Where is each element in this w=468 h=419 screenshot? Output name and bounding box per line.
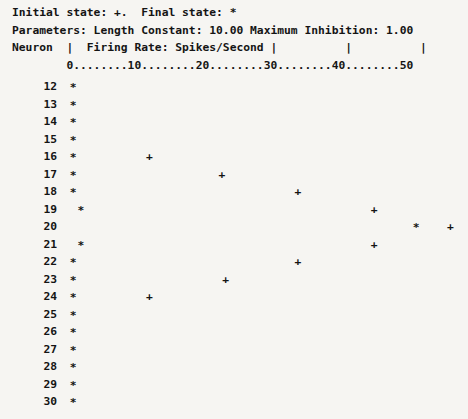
final-state-marker: * (70, 187, 77, 198)
final-state-marker: * (70, 170, 77, 181)
final-state-marker: * (77, 205, 84, 216)
neuron-row: 23*+ (0, 273, 468, 291)
neuron-row-label: 22 (0, 255, 57, 268)
final-state-marker: * (70, 362, 77, 373)
neuron-row-label: 21 (0, 238, 57, 251)
neuron-row-label: 13 (0, 98, 57, 111)
initial-state-marker: + (146, 291, 153, 302)
final-state-marker: * (70, 152, 77, 163)
final-state-marker: * (70, 397, 77, 408)
neuron-row-label: 18 (0, 185, 57, 198)
neuron-row: 15* (0, 133, 468, 151)
neuron-row-label: 24 (0, 290, 57, 303)
neuron-row: 13* (0, 98, 468, 116)
neuron-row: 22*+ (0, 255, 468, 273)
neuron-row-label: 19 (0, 203, 57, 216)
final-state-marker: * (70, 82, 77, 93)
neuron-row: 18*+ (0, 185, 468, 203)
neuron-row-label: 25 (0, 308, 57, 321)
neuron-row: 24*+ (0, 290, 468, 308)
initial-state-marker: + (218, 169, 225, 180)
plot-rows: 12*13*14*15*16*+17*+18*+19*+20*+21*+22*+… (0, 0, 468, 419)
neuron-row-label: 17 (0, 168, 57, 181)
initial-state-marker: + (371, 239, 378, 250)
initial-state-marker: + (447, 221, 454, 232)
final-state-marker: * (413, 222, 420, 233)
neuron-row: 27* (0, 343, 468, 361)
terminal-output-page: Initial state: +. Final state: * Paramet… (0, 0, 468, 419)
final-state-marker: * (70, 100, 77, 111)
final-state-marker: * (70, 135, 77, 146)
neuron-row-label: 15 (0, 133, 57, 146)
neuron-row-label: 12 (0, 80, 57, 93)
neuron-row-label: 16 (0, 150, 57, 163)
final-state-marker: * (70, 275, 77, 286)
neuron-row-label: 28 (0, 360, 57, 373)
initial-state-marker: + (295, 186, 302, 197)
neuron-row-label: 26 (0, 325, 57, 338)
neuron-row: 30* (0, 395, 468, 413)
initial-state-marker: + (146, 151, 153, 162)
neuron-row: 26* (0, 325, 468, 343)
neuron-row: 20*+ (0, 220, 468, 238)
neuron-row: 29* (0, 378, 468, 396)
neuron-row: 16*+ (0, 150, 468, 168)
neuron-row: 14* (0, 115, 468, 133)
final-state-marker: * (70, 327, 77, 338)
final-state-marker: * (77, 240, 84, 251)
neuron-row: 12* (0, 80, 468, 98)
final-state-marker: * (70, 310, 77, 321)
neuron-row-label: 20 (0, 220, 57, 233)
neuron-row-label: 29 (0, 378, 57, 391)
initial-state-marker: + (222, 274, 229, 285)
neuron-row: 28* (0, 360, 468, 378)
final-state-marker: * (70, 292, 77, 303)
neuron-row-label: 14 (0, 115, 57, 128)
neuron-row: 19*+ (0, 203, 468, 221)
final-state-marker: * (70, 257, 77, 268)
final-state-marker: * (70, 345, 77, 356)
final-state-marker: * (70, 117, 77, 128)
final-state-marker: * (70, 380, 77, 391)
neuron-row-label: 23 (0, 273, 57, 286)
initial-state-marker: + (295, 256, 302, 267)
neuron-row-label: 30 (0, 395, 57, 408)
neuron-row: 17*+ (0, 168, 468, 186)
initial-state-marker: + (371, 204, 378, 215)
neuron-row-label: 27 (0, 343, 57, 356)
neuron-row: 25* (0, 308, 468, 326)
neuron-row: 21*+ (0, 238, 468, 256)
